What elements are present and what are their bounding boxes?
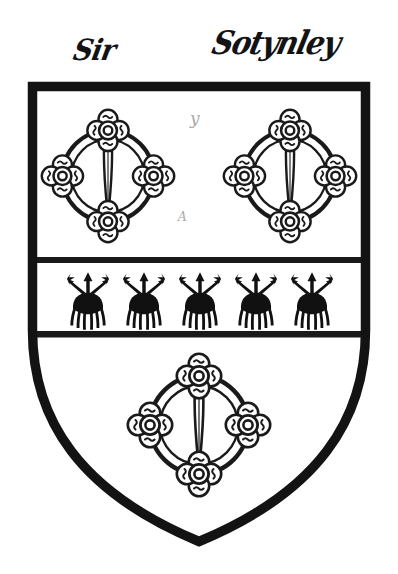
fess-lower-rule (32, 331, 366, 338)
shield-drawing (0, 0, 398, 574)
pencil-annotation-lower: A (178, 210, 187, 224)
inscription-right: Sotynley (209, 27, 342, 59)
pencil-annotation-upper: y (190, 108, 200, 128)
inscription-left: Sir (71, 35, 118, 64)
fess-upper-rule (32, 257, 366, 263)
heraldic-plate: Sir Sotynley (0, 0, 398, 574)
